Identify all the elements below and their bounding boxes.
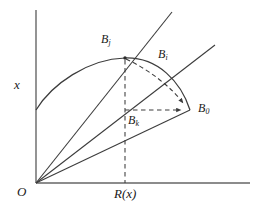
point-label-bj: Bj — [101, 33, 111, 45]
point-marker-bj — [123, 56, 126, 59]
point-label-bk-sub: k — [136, 119, 140, 128]
point-label-b0-base: B — [198, 101, 205, 115]
point-label-bi: Bi — [158, 48, 168, 60]
point-label-bk: Bk — [128, 114, 139, 126]
point-label-bj-sub: j — [109, 38, 111, 47]
origin-label: O — [17, 185, 26, 198]
chord-origin-to-b0 — [36, 110, 190, 183]
figure-container: x O R(x) Bj Bi B0 Bk — [0, 0, 262, 212]
diagram-canvas — [0, 0, 262, 212]
point-label-bi-sub: i — [166, 53, 168, 62]
x-axis-tick-label: R(x) — [114, 187, 136, 200]
ray-through-bi — [36, 45, 215, 183]
point-label-bk-base: B — [128, 113, 135, 127]
point-label-b0-sub: 0 — [206, 107, 210, 116]
point-label-bj-base: B — [101, 32, 108, 46]
point-label-b0: B0 — [198, 102, 209, 114]
y-axis-label: x — [14, 78, 20, 91]
point-label-bi-base: B — [158, 47, 165, 61]
frontier-arc — [36, 58, 190, 110]
